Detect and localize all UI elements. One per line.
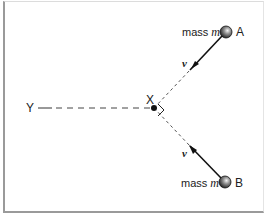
mass-a-text: mass <box>182 26 208 38</box>
mass-b-label: mass m <box>181 177 219 189</box>
ball-b-icon <box>219 176 231 188</box>
path-b <box>154 108 221 178</box>
mass-b-text: mass <box>181 177 207 189</box>
point-b-label: B <box>235 177 243 189</box>
mass-b-symbol: m <box>210 176 219 190</box>
velocity-a-label: v <box>182 58 187 69</box>
point-a-label: A <box>236 26 244 38</box>
ball-a-icon <box>220 26 232 38</box>
right-angle-marker-icon <box>158 104 164 116</box>
mass-a-symbol: m <box>211 25 220 39</box>
path-a <box>154 36 222 108</box>
mass-a-label: mass m <box>182 26 220 38</box>
velocity-b-label: v <box>182 148 187 159</box>
point-y-label: Y <box>26 102 34 114</box>
point-x-label: X <box>146 94 154 106</box>
collision-diagram <box>0 0 266 219</box>
